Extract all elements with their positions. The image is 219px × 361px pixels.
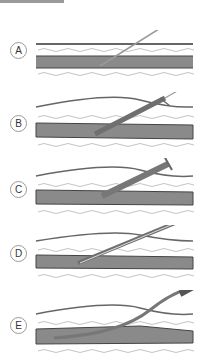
panel-a: A — [0, 30, 219, 85]
guidewire-icon — [165, 92, 186, 98]
guidewire-dilator-illustration — [0, 92, 219, 157]
panel-c: C — [0, 158, 219, 223]
panel-d: D — [0, 225, 219, 287]
needle-in-vessel-illustration — [0, 30, 219, 85]
sheath-insertion-illustration — [0, 158, 219, 223]
panel-b: B — [0, 92, 219, 157]
catheter-through-sheath-illustration — [0, 225, 219, 287]
catheter-in-vessel-illustration — [0, 290, 219, 361]
panel-e: E — [0, 290, 219, 361]
header-rule — [0, 0, 64, 3]
